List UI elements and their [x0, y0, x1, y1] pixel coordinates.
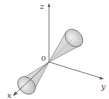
- z-arrow-icon: [48, 3, 51, 7]
- y-axis-label: y: [100, 82, 106, 91]
- z-axis-label: z: [39, 2, 45, 11]
- z-axis: [48, 3, 51, 62]
- y-arrow-icon: [100, 77, 105, 80]
- y-axis: [49, 62, 104, 80]
- x-axis-label: x: [7, 91, 12, 99]
- origin-label: 0: [41, 54, 46, 63]
- double-cone-diagram: z y x 0: [0, 0, 109, 99]
- upper-cone: [49, 26, 86, 62]
